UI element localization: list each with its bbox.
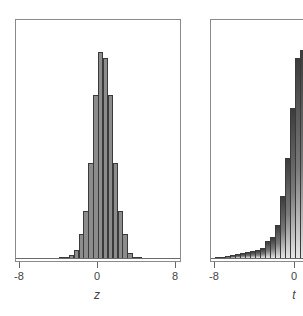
ticklabel-t-0: 0 <box>291 270 297 282</box>
histogram-bar <box>300 50 303 258</box>
baseline-t <box>211 258 303 259</box>
tick-t-0 <box>294 262 295 268</box>
histogram-t-panel: -8 0 t <box>0 0 303 316</box>
plot-frame-t <box>210 19 303 262</box>
tick-t-neg8 <box>214 262 215 268</box>
ticklabel-t-neg8: -8 <box>209 270 219 282</box>
xlabel-t: t <box>292 288 295 302</box>
